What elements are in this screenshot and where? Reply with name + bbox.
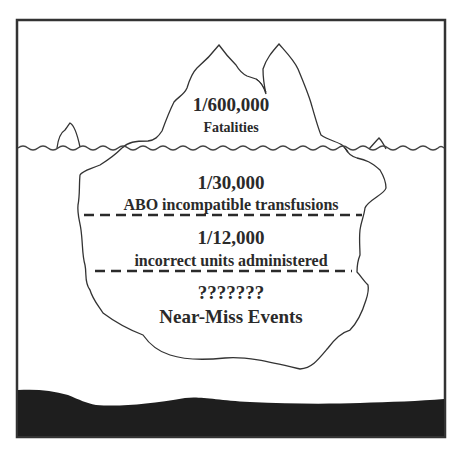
tier-1-label: Fatalities xyxy=(203,121,258,135)
tier-2-label: ABO incompatible transfusions xyxy=(123,197,338,213)
tier-3-rate: 1/12,000 xyxy=(197,228,264,247)
tier-3-label: incorrect units administered xyxy=(134,253,327,269)
tier-1-rate: 1/600,000 xyxy=(193,95,270,114)
tier-2-rate: 1/30,000 xyxy=(197,173,264,192)
tier-4-rate: ??????? xyxy=(198,283,265,302)
tier-4-label: Near-Miss Events xyxy=(159,307,302,326)
iceberg-diagram: 1/600,000 Fatalities 1/30,000 ABO incomp… xyxy=(0,0,461,453)
